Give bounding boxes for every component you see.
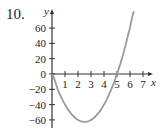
chart: yx12345676040200−20−40−60 <box>0 0 160 136</box>
y-tick-label: 20 <box>35 53 47 65</box>
x-tick-label: 2 <box>75 78 81 90</box>
x-axis-label: x <box>150 76 156 88</box>
data-curve <box>52 11 134 122</box>
x-tick-label: 6 <box>127 78 133 90</box>
y-tick-label: 40 <box>35 37 47 49</box>
x-tick-label: 4 <box>101 78 107 90</box>
x-tick-label: 3 <box>88 78 94 90</box>
y-axis-label: y <box>43 5 49 17</box>
y-tick-label: 0 <box>41 68 47 80</box>
y-tick-label: −60 <box>29 114 47 126</box>
y-axis-arrow-icon <box>50 9 54 14</box>
y-tick-label: −20 <box>29 83 47 95</box>
x-tick-label: 1 <box>62 78 68 90</box>
y-tick-label: 60 <box>35 22 47 34</box>
x-tick-label: 7 <box>140 78 146 90</box>
y-tick-label: −40 <box>29 99 47 111</box>
